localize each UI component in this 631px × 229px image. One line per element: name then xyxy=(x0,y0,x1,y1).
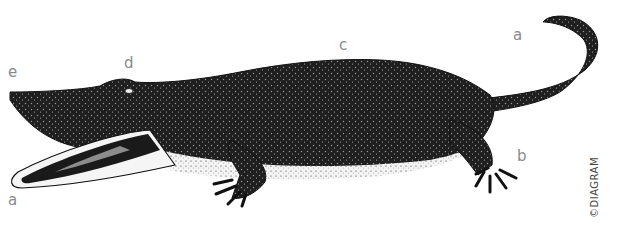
label-e: e xyxy=(8,65,17,80)
crocodile-illustration xyxy=(0,0,631,229)
label-a-tail: a xyxy=(513,28,522,43)
eye xyxy=(125,89,133,94)
hind-foot xyxy=(476,168,516,192)
label-a-snout: a xyxy=(8,193,17,208)
crocodile-diagram: a a b c d e ©DIAGRAM xyxy=(0,0,631,229)
label-d: d xyxy=(124,56,134,71)
label-c: c xyxy=(339,38,347,53)
copyright-credit: ©DIAGRAM xyxy=(589,157,600,218)
label-b: b xyxy=(517,149,527,164)
